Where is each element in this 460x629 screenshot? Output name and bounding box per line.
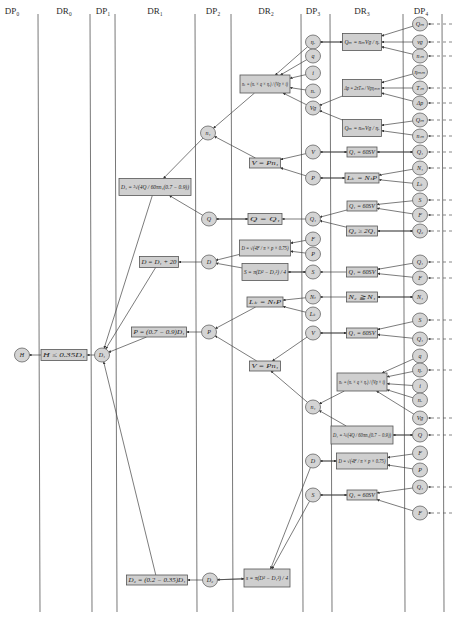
parameter-label: ηᵣ (311, 39, 316, 45)
parameter-node: P (202, 325, 217, 339)
parameter-label: Q (418, 432, 423, 438)
parameter-node: nᵣ (413, 393, 428, 407)
parameter-node: nₘ (413, 129, 428, 143)
arrow (387, 371, 413, 376)
equation-text: H ≤ 0.35D₁ (41, 352, 85, 358)
parameter-label: nᵣ (418, 397, 423, 403)
parameter-node: Qₘ (413, 17, 428, 31)
arrow (163, 138, 203, 179)
equation-text: Q₁ = 60SV (349, 330, 377, 336)
parameter-node: i (413, 379, 428, 393)
parameter-node: Q₂ (413, 224, 428, 238)
parameter-label: F (417, 450, 422, 456)
arrow (108, 337, 146, 352)
parameter-node: F (413, 506, 428, 520)
parameter-label: P (310, 175, 315, 181)
arrow (388, 454, 414, 458)
parameter-node: q (306, 49, 321, 63)
arrow (319, 96, 342, 105)
arrow (377, 488, 413, 493)
arrow (387, 384, 413, 386)
parameter-label: Q₁ (417, 336, 423, 342)
parameter-label: q (419, 353, 422, 359)
parameter-node: n₁ (306, 400, 321, 414)
parameter-node: F (306, 232, 321, 246)
equation-text: V = Pn₁ (252, 363, 279, 369)
arrow (382, 93, 414, 101)
equation-box: N₂ ≧ N₁ (347, 292, 378, 302)
parameter-label: Q (207, 216, 212, 222)
parameter-node: Qₘ (413, 113, 428, 127)
arrow (378, 322, 414, 330)
parameter-label: S (312, 492, 315, 498)
equation-text: Q₁ = 60SV (349, 269, 377, 275)
parameter-label: N₁ (416, 165, 423, 171)
arrow (215, 336, 257, 361)
parameter-node: Lₖ (413, 177, 428, 191)
equation-box: D₂ = (0.2 − 0.35)D₁ (127, 575, 188, 585)
parameter-label: Lₖ (416, 181, 423, 187)
equation-text: S = π(D² − D₁²) / 4 (244, 269, 286, 276)
parameter-label: Q₁ (417, 484, 423, 490)
parameter-label: n₁ (205, 130, 210, 136)
parameter-node: S (413, 193, 428, 207)
equation-text: Q = Q₁ (250, 216, 280, 222)
parameter-label: Q₁ (310, 216, 316, 222)
equation-text: D = √(4F / π × p × 0.75) (241, 245, 289, 252)
parameter-label: S (419, 197, 422, 203)
parameter-node: ηᵣ (413, 363, 428, 377)
arrow (104, 196, 152, 349)
arrow (281, 168, 307, 176)
arrow (387, 390, 413, 398)
arrow (291, 251, 307, 253)
parameter-label: Vɡ (417, 415, 424, 421)
equation-text: Δp = 2πTₘ / Vɡηₘₘ (344, 85, 380, 91)
column-divider (442, 14, 444, 612)
parameter-label: Qₘ (416, 117, 424, 123)
parameter-node: V (306, 145, 321, 159)
column-divider (301, 14, 303, 612)
parameter-node: P (306, 247, 321, 261)
arrow (377, 500, 413, 511)
parameter-node: P (413, 463, 428, 477)
equation-text: D = D₁ + 20 (140, 259, 176, 265)
equation-text: nₜ = (nᵣ × q × ηᵣ) / (Vɡ × i) (242, 81, 288, 88)
parameter-node: nᵣ (306, 84, 321, 98)
dashed-input-arrows (428, 24, 452, 513)
arrow (382, 74, 414, 83)
design-equation-boxes: H ≤ 0.35D₁D₁ = ³√(4Q / 60πn₁(0.7 − 0.9))… (41, 34, 393, 588)
equation-box: D₁ = ³√(4Q / 60πn₁(0.7 − 0.9)) (119, 179, 191, 196)
parameter-node: Q₁ (413, 480, 428, 494)
parameter-label: F (417, 510, 422, 516)
equation-box: Lₖ = NₜP (345, 173, 379, 183)
parameter-node: Δp (413, 96, 428, 110)
equation-text: Qₘ = nₘVɡ / ηᵣ (345, 125, 380, 131)
parameter-label: D (310, 458, 316, 464)
equation-box: Q₁ = 60SV (347, 147, 377, 157)
equation-box: D = √(4F / π × p × 0.75) (240, 240, 291, 256)
arrow (382, 131, 414, 135)
equation-text: D₁ = ³√(4Q / 60πn₁(0.7 − 0.9)) (120, 184, 189, 191)
arrow (271, 468, 311, 569)
parameter-node: ηᵣ (306, 35, 321, 49)
equation-text: Lₖ = NₜP (346, 175, 378, 181)
parameter-label: nₘ (417, 53, 424, 59)
equation-box: Qₘ = nₘVɡ / ηᵣ (343, 34, 382, 51)
equation-box: H ≤ 0.35D₁ (41, 350, 87, 361)
equation-text: nₜ = (nᵣ × q × ηᵣ) / (Vɡ × i) (339, 379, 385, 386)
equation-box: Δp = 2πTₘ / Vɡηₘₘ (343, 80, 382, 97)
arrow (382, 47, 414, 55)
equation-box: nₜ = (nᵣ × q × ηᵣ) / (Vɡ × i) (240, 75, 290, 93)
column-divider (90, 14, 92, 612)
equation-text: Lₖ = NₜP (248, 299, 282, 305)
arrow (382, 359, 414, 373)
column-divider (403, 14, 405, 612)
equation-box: s = π(D² − D₁²) / 4 (244, 569, 290, 587)
arrow (320, 210, 347, 217)
equation-box: nₜ = (nᵣ × q × ηᵣ) / (Vɡ × i) (337, 373, 387, 391)
parameter-node: S (306, 265, 321, 279)
equation-box: Q₁ = 60SV (347, 201, 377, 211)
equation-box: Q₁ = 60SV (347, 267, 378, 277)
parameter-label: P (417, 467, 422, 473)
parameter-label: S (419, 317, 422, 323)
